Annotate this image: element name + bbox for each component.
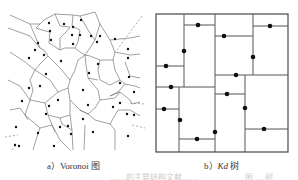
kdtree-points xyxy=(162,23,273,142)
voronoi-caption-text: Voronoi 图 xyxy=(60,161,100,171)
kdtree-svg xyxy=(148,0,298,155)
kdtree-caption-italic: Kd xyxy=(218,161,229,171)
kdtree-caption-text: 树 xyxy=(228,161,239,171)
footer-faint-left: ……的主要结构文献…… xyxy=(110,171,198,180)
kdtree-diagram xyxy=(148,0,298,155)
kdtree-caption-prefix: b） xyxy=(204,161,218,171)
voronoi-diagram xyxy=(0,0,150,152)
voronoi-caption: a）Voronoi 图 xyxy=(47,159,100,172)
voronoi-caption-prefix: a） xyxy=(47,161,60,171)
kdtree-caption: b）Kd 树 xyxy=(204,159,239,172)
footer-faint-right: 图 … 树 xyxy=(245,171,273,180)
voronoi-svg xyxy=(0,0,150,152)
